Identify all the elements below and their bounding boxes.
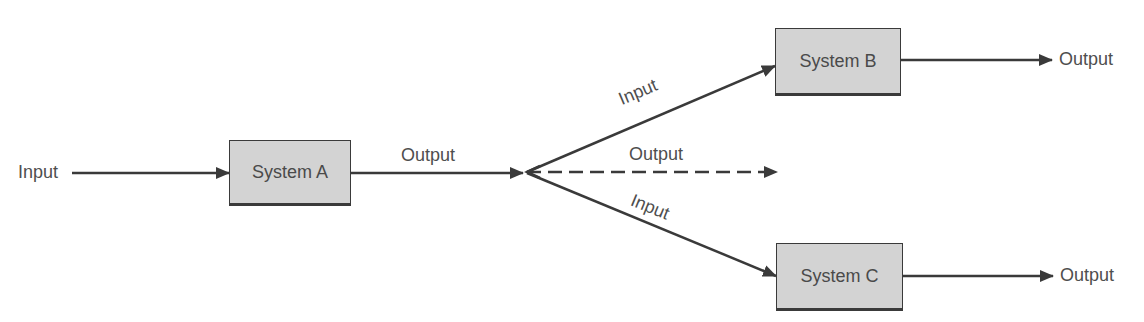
output-dashed-label: Output (629, 145, 683, 163)
output-c-label: Output (1060, 266, 1114, 284)
diagram-connectors (0, 0, 1144, 322)
input-label: Input (18, 163, 58, 181)
branch-to-c-arrow (527, 173, 776, 276)
system-a-label: System A (252, 162, 328, 183)
system-b-label: System B (799, 51, 876, 72)
output-a-label: Output (401, 146, 455, 164)
system-c-label: System C (800, 266, 878, 287)
system-a-box: System A (229, 140, 351, 206)
system-b-box: System B (775, 28, 901, 96)
output-b-label: Output (1059, 50, 1113, 68)
system-c-box: System C (776, 243, 903, 311)
